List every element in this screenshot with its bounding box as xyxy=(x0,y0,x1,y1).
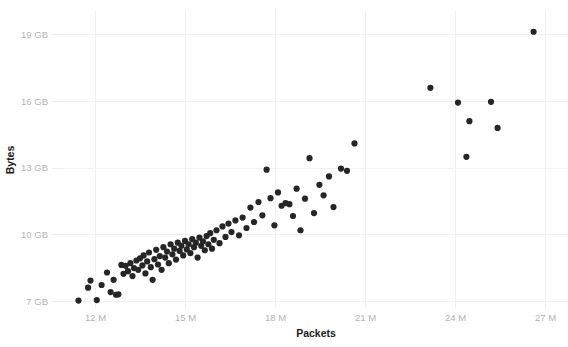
x-tick-label: 27 M xyxy=(535,312,556,323)
scatter-point xyxy=(311,210,317,216)
scatter-point xyxy=(297,227,303,233)
y-axis-ticks: 7 GB10 GB13 GB16 GB19 GB xyxy=(21,29,48,307)
scatter-point xyxy=(240,214,246,220)
scatter-point xyxy=(219,223,225,229)
x-tick-label: 12 M xyxy=(85,312,106,323)
y-axis-title: Bytes xyxy=(4,146,16,175)
scatter-point xyxy=(157,253,163,259)
x-tick-label: 15 M xyxy=(175,312,196,323)
scatter-point xyxy=(427,85,433,91)
scatter-point xyxy=(466,118,472,124)
scatter-point xyxy=(344,168,350,174)
scatter-point xyxy=(187,250,193,256)
y-tick-label: 16 GB xyxy=(21,96,48,107)
chart-canvas: 7 GB10 GB13 GB16 GB19 GB 12 M15 M18 M21 … xyxy=(0,0,568,347)
scatter-point xyxy=(169,251,175,257)
scatter-point xyxy=(247,204,253,210)
scatter-point xyxy=(275,189,281,195)
scatter-point xyxy=(531,29,537,35)
scatter-point xyxy=(159,267,165,273)
scatter-point xyxy=(232,217,238,223)
scatter-point xyxy=(306,155,312,161)
scatter-point xyxy=(488,99,494,105)
scatter-point xyxy=(195,255,201,261)
x-tick-label: 21 M xyxy=(355,312,376,323)
scatter-point xyxy=(321,192,327,198)
scatter-point xyxy=(495,125,501,131)
scatter-point xyxy=(75,297,81,303)
scatter-point xyxy=(338,166,344,172)
scatter-point xyxy=(294,186,300,192)
scatter-point xyxy=(193,240,199,246)
scatter-point xyxy=(153,247,159,253)
scatter-point xyxy=(148,264,154,270)
scatter-point xyxy=(255,199,261,205)
scatter-point xyxy=(104,269,110,275)
scatter-point xyxy=(111,277,117,283)
scatter-point xyxy=(142,270,148,276)
scatter-point xyxy=(326,173,332,179)
scatter-point xyxy=(222,234,228,240)
scatter-point xyxy=(125,268,131,274)
scatter-point xyxy=(115,291,121,297)
x-axis-ticks: 12 M15 M18 M21 M24 M27 M xyxy=(85,312,556,323)
y-tick-label: 10 GB xyxy=(21,229,48,240)
scatter-point xyxy=(166,260,172,266)
scatter-point xyxy=(85,285,91,291)
scatter-point xyxy=(259,212,265,218)
x-axis-title: Packets xyxy=(296,327,336,339)
scatter-point xyxy=(99,282,105,288)
scatter-point xyxy=(264,167,270,173)
scatter-point xyxy=(267,195,273,201)
x-tick-label: 24 M xyxy=(445,312,466,323)
scatter-point xyxy=(180,252,186,258)
scatter-point xyxy=(225,220,231,226)
y-tick-label: 19 GB xyxy=(21,29,48,40)
scatter-point xyxy=(164,249,170,255)
scatter-point xyxy=(207,230,213,236)
scatter-point xyxy=(463,154,469,160)
scatter-point xyxy=(146,249,152,255)
scatter-point xyxy=(455,99,461,105)
scatter-point xyxy=(155,261,161,267)
scatter-point xyxy=(216,240,222,246)
scatter-point xyxy=(302,196,308,202)
scatter-point xyxy=(171,246,177,252)
scatter-point xyxy=(251,219,257,225)
scatter-point xyxy=(139,262,145,268)
scatter-point xyxy=(144,258,150,264)
scatter-point xyxy=(330,204,336,210)
scatter-point xyxy=(316,182,322,188)
scatter-point xyxy=(200,238,206,244)
x-tick-label: 18 M xyxy=(265,312,286,323)
scatter-point xyxy=(151,256,157,262)
scatter-point xyxy=(286,201,292,207)
scatter-point xyxy=(290,213,296,219)
scatter-point xyxy=(186,241,192,247)
y-tick-label: 7 GB xyxy=(26,296,48,307)
scatter-chart: 7 GB10 GB13 GB16 GB19 GB 12 M15 M18 M21 … xyxy=(0,0,568,347)
scatter-point xyxy=(150,277,156,283)
scatter-point xyxy=(162,255,168,261)
scatter-point xyxy=(173,257,179,263)
scatter-point xyxy=(228,229,234,235)
scatter-point xyxy=(211,237,217,243)
scatter-point xyxy=(94,297,100,303)
scatter-point xyxy=(209,246,215,252)
scatter-point xyxy=(271,222,277,228)
data-points xyxy=(75,29,536,304)
scatter-point xyxy=(351,140,357,146)
scatter-point xyxy=(129,273,135,279)
scatter-point xyxy=(108,289,114,295)
y-tick-label: 13 GB xyxy=(21,162,48,173)
scatter-point xyxy=(141,252,147,258)
scatter-point xyxy=(213,227,219,233)
scatter-point xyxy=(202,247,208,253)
scatter-point xyxy=(87,277,93,283)
scatter-point xyxy=(243,225,249,231)
scatter-point xyxy=(236,232,242,238)
